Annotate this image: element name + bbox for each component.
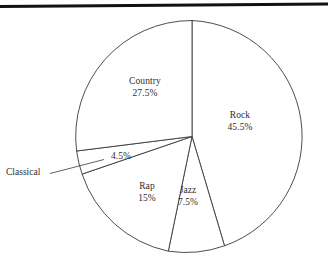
pie-label-country: Country 27.5% — [112, 76, 178, 99]
pie-label-rock-percent: 45.5% — [205, 122, 275, 134]
pie-label-rap-name: Rap — [117, 181, 177, 193]
pie-label-rap-percent: 15% — [117, 193, 177, 205]
pie-label-rock-name: Rock — [205, 110, 275, 122]
pie-label-rap: Rap 15% — [117, 181, 177, 204]
chart-page: Rock 45.5% Jazz 7.5% Rap 15% Country 27.… — [0, 0, 328, 271]
pie-label-country-percent: 27.5% — [112, 88, 178, 100]
pie-label-rock: Rock 45.5% — [205, 110, 275, 133]
pie-label-classical-name: Classical — [6, 167, 40, 179]
pie-label-country-name: Country — [112, 76, 178, 88]
pie-chart — [0, 0, 328, 271]
pie-label-classical-percent: 4.5% — [111, 151, 131, 163]
